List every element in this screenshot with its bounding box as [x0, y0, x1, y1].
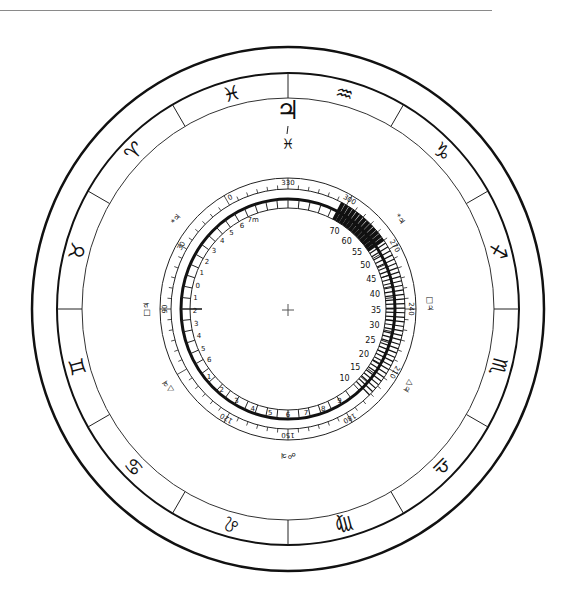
aspect-label: □♃ — [142, 302, 151, 317]
scale-label: 6 — [240, 222, 245, 230]
aspect-label: ☍♃ — [280, 451, 295, 460]
aspect-label: *♃ — [393, 212, 407, 226]
zodiac-sign-taurus: ♉ — [64, 240, 92, 264]
scale-label: 4 — [251, 405, 256, 413]
scale-label: 7 — [304, 409, 308, 417]
degree-label: 240 — [407, 302, 415, 315]
scale-label: 6 — [207, 356, 212, 364]
scale-label: 35 — [371, 306, 381, 315]
scale-label: 5 — [229, 229, 233, 237]
scale-label: 45 — [366, 275, 376, 284]
degree-label: 210 — [388, 364, 402, 380]
zodiac-sign-capricorn: ♑ — [427, 136, 457, 166]
zodiac-sign-aquarius: ♒ — [333, 80, 357, 108]
zodiac-sign-scorpio: ♏ — [485, 355, 513, 379]
scale-label: 10 — [339, 374, 349, 383]
scale-label: 3 — [194, 320, 198, 328]
scale-label: 40 — [370, 290, 380, 299]
degree-label: 120 — [219, 411, 235, 425]
degree-label: 90 — [161, 305, 169, 314]
scale-label: 2 — [205, 258, 209, 266]
degree-label: 330 — [281, 179, 294, 187]
scale-label: 2 — [220, 386, 224, 394]
scale-label: 30 — [369, 321, 379, 330]
scale-label: 5 — [268, 409, 272, 417]
aspect-label: *♃ — [169, 212, 183, 226]
degree-label: 180 — [342, 411, 358, 425]
aspect-label: △♃ — [401, 378, 416, 394]
scale-label: 70 — [330, 227, 340, 236]
degree-label: 150 — [281, 431, 294, 439]
scale-label: 20 — [359, 350, 369, 359]
scale-label: 4 — [197, 332, 202, 340]
zodiac-sign-leo: ♌ — [220, 510, 244, 538]
scale-label: 3 — [234, 397, 238, 405]
scale-label: 3 — [212, 247, 216, 255]
aspect-label: △♃ — [160, 378, 175, 394]
jupiter-icon: ♃ — [276, 95, 299, 125]
scale-label: 9 — [337, 397, 341, 405]
scale-label: 4 — [220, 237, 225, 245]
zodiac-sign-virgo: ♍ — [333, 510, 357, 538]
scale-label: 50 — [360, 261, 370, 270]
scale-label: 60 — [342, 237, 352, 246]
zodiac-sign-pisces: ♓ — [220, 80, 244, 108]
scale-label: 6 — [286, 411, 291, 419]
scale-label: 55 — [352, 248, 362, 257]
top-jupiter-marker: ♃♓ — [276, 95, 299, 152]
scale-label: 1 — [193, 294, 197, 302]
scale-label: 7m — [248, 216, 259, 224]
scale-label: 8 — [321, 405, 325, 413]
center-cross-icon — [282, 304, 294, 316]
zodiac-sign-gemini: ♊ — [64, 355, 92, 379]
scale-label: 15 — [350, 363, 360, 372]
astrological-dial: ♓♈♉♊♋♌♍♎♏♐♑♒ 1015202530354045505560707m6… — [0, 0, 578, 590]
zodiac-sign-libra: ♎ — [427, 452, 457, 482]
scale-label: 1 — [199, 269, 203, 277]
pisces-icon: ♓ — [282, 136, 295, 152]
scale-label: 1 — [207, 373, 211, 381]
scale-label: 5 — [201, 345, 205, 353]
aspect-label: □♃ — [425, 296, 435, 311]
zodiac-sign-aries: ♈ — [119, 136, 149, 166]
scale-label: 0 — [196, 282, 200, 290]
zodiac-sign-sagittarius: ♐ — [485, 240, 513, 264]
scale-label: 25 — [365, 336, 375, 345]
zodiac-sign-cancer: ♋ — [119, 452, 149, 482]
